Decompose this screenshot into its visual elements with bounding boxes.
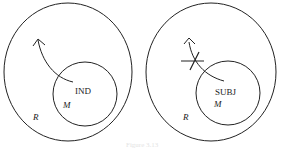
inner-label-right: M [214, 100, 222, 109]
center-label-right: SUBJ [215, 88, 236, 97]
outer-label-right: R [183, 113, 189, 122]
right-diagram [146, 3, 276, 141]
diagram-canvas [0, 0, 284, 151]
inner-label-left: M [63, 101, 71, 110]
center-label-left: IND [75, 87, 91, 96]
outer-circle-r [4, 3, 132, 141]
outer-label-left: R [33, 113, 39, 122]
figure-caption: Figure 3.13 [126, 141, 158, 149]
arrow-path [38, 40, 73, 82]
left-diagram [4, 3, 132, 141]
